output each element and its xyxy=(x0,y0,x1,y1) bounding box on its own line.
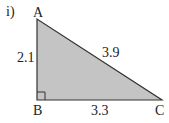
vertex-label-c: C xyxy=(155,104,164,118)
triangle-abc xyxy=(37,19,162,100)
side-length-ab: 2.1 xyxy=(17,51,35,65)
vertex-label-a: A xyxy=(33,6,43,20)
side-length-bc: 3.3 xyxy=(91,104,109,118)
vertex-label-b: B xyxy=(33,104,42,118)
side-length-ac: 3.9 xyxy=(102,46,120,60)
